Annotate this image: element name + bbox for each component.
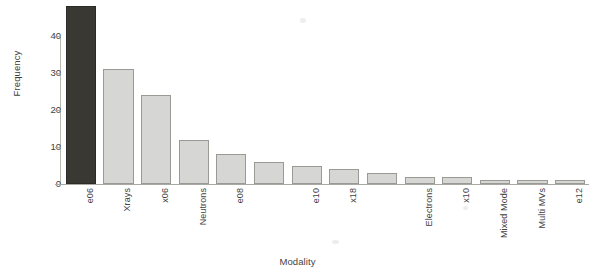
bar [329,169,359,184]
x-axis-tick-label: e12 [574,188,584,203]
plot-area [62,0,589,184]
x-axis-tick-label: Mixed Mode [499,188,509,238]
y-axis-tick-mark [55,36,61,37]
y-axis-tick-mark [55,73,61,74]
y-axis-tick: 10 [0,147,61,148]
x-axis-tick-label: Xrays [122,188,132,212]
bar [292,166,322,185]
bar [254,162,284,184]
x-axis-tick-label: e10 [311,188,321,203]
scan-artifact [463,206,468,210]
y-axis-tick: 20 [0,110,61,111]
bar [216,154,246,184]
bar [405,177,435,184]
y-axis-tick: 40 [0,36,61,37]
y-axis-tick-mark [55,147,61,148]
x-axis-tick-label: x18 [348,188,358,203]
bar [141,95,171,184]
y-axis-tick-mark [55,110,61,111]
bar [103,69,133,184]
bar [367,173,397,184]
x-axis-tick-label: Neutrons [198,188,208,225]
bar [179,140,209,184]
y-axis-tick: 30 [0,73,61,74]
x-axis-line [60,184,589,185]
x-axis-tick-label: e06 [85,188,95,203]
x-axis-tick-label: Electrons [424,188,434,226]
bar [66,6,96,184]
x-axis-title: Modality [0,256,595,267]
bar-chart: Frequency 010203040 e06Xraysx06Neutronse… [0,0,595,276]
x-axis-tick-label: e08 [235,188,245,203]
x-axis-tick-label: x06 [160,188,170,203]
x-axis-tick-label: x10 [461,188,471,203]
bar [442,177,472,184]
scan-artifact [332,240,339,244]
x-axis-tick-label: Multi MVs [537,188,547,228]
y-axis-tick: 0 [0,184,61,185]
